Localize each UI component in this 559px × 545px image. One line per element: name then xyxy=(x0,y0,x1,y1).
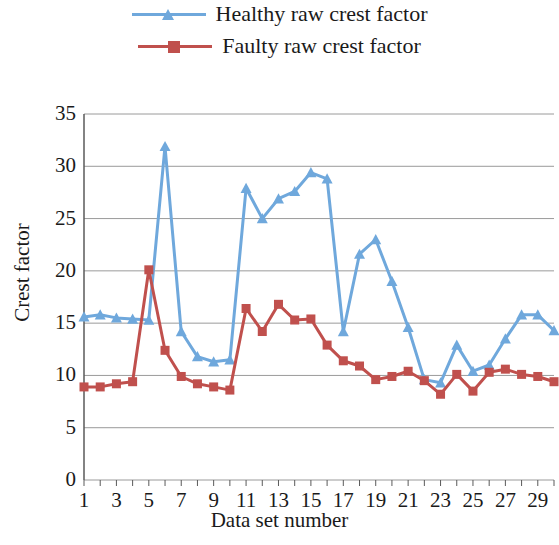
data-point-marker xyxy=(80,382,89,391)
data-point-marker xyxy=(323,341,332,350)
y-tick-label: 35 xyxy=(36,103,76,124)
data-point-marker xyxy=(501,365,510,374)
y-tick-label: 25 xyxy=(36,208,76,229)
data-point-marker xyxy=(144,265,153,274)
legend-label-faulty: Faulty raw crest factor xyxy=(222,34,421,58)
data-point-marker xyxy=(128,377,137,386)
chart-svg xyxy=(0,100,559,500)
chart-container: Healthy raw crest factor Faulty raw cres… xyxy=(0,0,559,545)
y-tick-label: 0 xyxy=(36,469,76,490)
legend-key-faulty xyxy=(138,36,212,56)
data-point-marker xyxy=(242,304,251,313)
plot-area: 05101520253035 1357911131517192123252729… xyxy=(0,100,559,545)
data-point-marker xyxy=(338,326,349,336)
data-point-marker xyxy=(452,370,461,379)
data-point-marker xyxy=(436,390,445,399)
y-tick-label: 10 xyxy=(36,364,76,385)
y-axis-tick-labels: 05101520253035 xyxy=(32,100,76,480)
data-point-marker xyxy=(550,377,559,386)
y-tick-label: 15 xyxy=(36,312,76,333)
data-point-marker xyxy=(193,379,202,388)
data-point-marker xyxy=(112,379,121,388)
data-point-marker xyxy=(339,356,348,365)
data-point-marker xyxy=(177,372,186,381)
data-point-marker xyxy=(209,382,218,391)
data-point-marker xyxy=(160,141,171,151)
data-point-marker xyxy=(517,370,526,379)
legend-item-faulty: Faulty raw crest factor xyxy=(138,34,421,58)
data-point-marker xyxy=(176,326,187,336)
y-tick-label: 5 xyxy=(36,417,76,438)
data-point-marker xyxy=(485,368,494,377)
y-axis-title: Crest factor xyxy=(10,163,35,383)
data-point-marker xyxy=(241,183,252,193)
y-tick-label: 30 xyxy=(36,155,76,176)
data-point-marker xyxy=(468,387,477,396)
legend-label-healthy: Healthy raw crest factor xyxy=(216,2,428,26)
square-marker-icon xyxy=(167,40,181,54)
data-point-marker xyxy=(371,375,380,384)
data-point-marker xyxy=(404,367,413,376)
data-point-marker xyxy=(225,386,234,395)
series-line-healthy xyxy=(84,146,554,382)
data-point-marker xyxy=(355,362,364,371)
data-point-marker xyxy=(306,314,315,323)
triangle-marker-icon xyxy=(161,8,175,22)
data-point-marker xyxy=(258,327,267,336)
data-point-marker xyxy=(420,376,429,385)
data-point-marker xyxy=(161,346,170,355)
data-point-marker xyxy=(451,340,462,350)
y-tick-label: 20 xyxy=(36,260,76,281)
data-point-marker xyxy=(290,316,299,325)
chart-legend: Healthy raw crest factor Faulty raw cres… xyxy=(0,2,559,58)
x-axis-title: Data set number xyxy=(0,508,559,533)
data-point-marker xyxy=(386,276,397,286)
data-point-marker xyxy=(274,300,283,309)
data-point-marker xyxy=(533,372,542,381)
data-point-marker xyxy=(387,372,396,381)
data-point-marker xyxy=(370,234,381,244)
legend-item-healthy: Healthy raw crest factor xyxy=(132,2,428,26)
legend-key-healthy xyxy=(132,4,206,24)
data-point-marker xyxy=(305,167,316,177)
data-point-marker xyxy=(96,382,105,391)
